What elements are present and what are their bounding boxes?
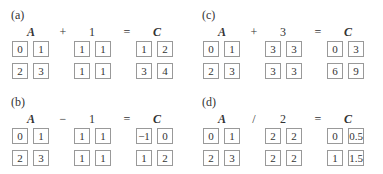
panel-label: (a) — [11, 8, 24, 23]
broadcast-matrix: 3333 — [265, 41, 302, 79]
matrix-c: 1234 — [136, 41, 173, 79]
equals-symbol: = — [303, 25, 333, 40]
panel-label: (d) — [202, 95, 216, 110]
matrix-cell: 2 — [265, 150, 281, 166]
matrix-c: 0369 — [327, 41, 364, 79]
matrix-cell: 2 — [203, 63, 219, 79]
matrix-cell: 1 — [95, 150, 111, 166]
operand-value: 2 — [268, 112, 298, 127]
matrix-cell: 0 — [203, 128, 219, 144]
matrix-cell: 3 — [33, 150, 49, 166]
panel-label: (c) — [202, 8, 215, 23]
matrix-cell: 2 — [12, 63, 28, 79]
operation-panel: (d) A / 2 = C 0123 2222 00.511.5 — [191, 87, 383, 174]
matrix-cell: 9 — [348, 63, 364, 79]
matrix-cell: 3 — [265, 63, 281, 79]
matrix-cell: 1.5 — [348, 150, 364, 166]
matrix-cell: 3 — [286, 41, 302, 57]
matrix-a-label: A — [16, 25, 46, 40]
panel-label: (b) — [11, 95, 25, 110]
matrix-cell: 1 — [74, 150, 90, 166]
matrix-cell: 6 — [327, 63, 343, 79]
operation-panel: (a) A + 1 = C 0123 1111 1234 — [0, 0, 192, 87]
matrix-cell: 0 — [327, 128, 343, 144]
matrix-cell: 1 — [224, 128, 240, 144]
matrix-cell: 2 — [12, 150, 28, 166]
matrix-a-label: A — [16, 112, 46, 127]
matrix-cell: 3 — [265, 41, 281, 57]
operation-panel: (b) A − 1 = C 0123 1111 −1012 — [0, 87, 192, 174]
matrix-a: 0123 — [12, 128, 49, 166]
matrix-c-label: C — [333, 112, 363, 127]
matrix-cell: 2 — [157, 150, 173, 166]
matrix-cell: 1 — [136, 150, 152, 166]
matrix-cell: 1 — [74, 63, 90, 79]
matrix-a-label: A — [207, 25, 237, 40]
matrix-a: 0123 — [12, 41, 49, 79]
matrix-cell: 0 — [157, 128, 173, 144]
matrix-cell: 1 — [95, 41, 111, 57]
matrix-cell: 3 — [136, 63, 152, 79]
broadcast-matrix: 1111 — [74, 128, 111, 166]
matrix-cell: 2 — [157, 41, 173, 57]
equals-symbol: = — [112, 112, 142, 127]
matrix-cell: 3 — [348, 41, 364, 57]
matrix-c-label: C — [333, 25, 363, 40]
broadcast-matrix: 1111 — [74, 41, 111, 79]
matrix-c: 00.511.5 — [327, 128, 364, 166]
equals-symbol: = — [303, 112, 333, 127]
matrix-cell: 2 — [286, 150, 302, 166]
matrix-cell: 0 — [327, 41, 343, 57]
matrix-cell: 1 — [95, 63, 111, 79]
matrix-cell: 1 — [95, 128, 111, 144]
matrix-c: −1012 — [136, 128, 173, 166]
matrix-cell: 3 — [33, 63, 49, 79]
operator-symbol: + — [239, 25, 269, 40]
matrix-cell: 3 — [224, 150, 240, 166]
matrix-cell: 3 — [224, 63, 240, 79]
operand-value: 1 — [77, 25, 107, 40]
broadcast-matrix: 2222 — [265, 128, 302, 166]
equals-symbol: = — [112, 25, 142, 40]
matrix-cell: 1 — [327, 150, 343, 166]
operand-value: 1 — [77, 112, 107, 127]
matrix-cell: 0 — [203, 41, 219, 57]
matrix-cell: 2 — [203, 150, 219, 166]
matrix-cell: 2 — [265, 128, 281, 144]
operation-panel: (c) A + 3 = C 0123 3333 0369 — [191, 0, 383, 87]
operator-symbol: / — [239, 112, 269, 127]
matrix-cell: 3 — [286, 63, 302, 79]
matrix-cell: 0.5 — [348, 128, 364, 144]
matrix-cell: 2 — [286, 128, 302, 144]
matrix-cell: −1 — [136, 128, 152, 144]
matrix-cell: 0 — [12, 41, 28, 57]
matrix-a: 0123 — [203, 128, 240, 166]
matrix-cell: 1 — [33, 128, 49, 144]
matrix-cell: 0 — [12, 128, 28, 144]
matrix-a: 0123 — [203, 41, 240, 79]
matrix-c-label: C — [142, 112, 172, 127]
matrix-cell: 4 — [157, 63, 173, 79]
matrix-c-label: C — [142, 25, 172, 40]
matrix-cell: 1 — [74, 128, 90, 144]
operand-value: 3 — [268, 25, 298, 40]
matrix-cell: 1 — [136, 41, 152, 57]
matrix-a-label: A — [207, 112, 237, 127]
operator-symbol: + — [48, 25, 78, 40]
matrix-cell: 1 — [224, 41, 240, 57]
matrix-cell: 1 — [33, 41, 49, 57]
matrix-cell: 1 — [74, 41, 90, 57]
operator-symbol: − — [48, 112, 78, 127]
